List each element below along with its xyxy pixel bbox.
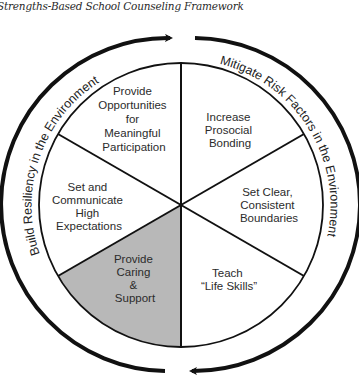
sector-label-meaningful-participation: Provide Opportunities for Meaningful Par…	[98, 85, 170, 153]
sector-label-life-skills: Teach “Life Skills”	[201, 267, 257, 292]
sector-label-high-expectations: Set and Communicate High Expectations	[52, 181, 126, 232]
sector-label-prosocial-bonding: Increase Prosocial Bonding	[205, 111, 256, 149]
framework-wheel-diagram: Build Resiliency in the Environment Miti…	[0, 0, 359, 389]
sector-label-clear-boundaries: Set Clear, Consistent Boundaries	[240, 186, 298, 224]
